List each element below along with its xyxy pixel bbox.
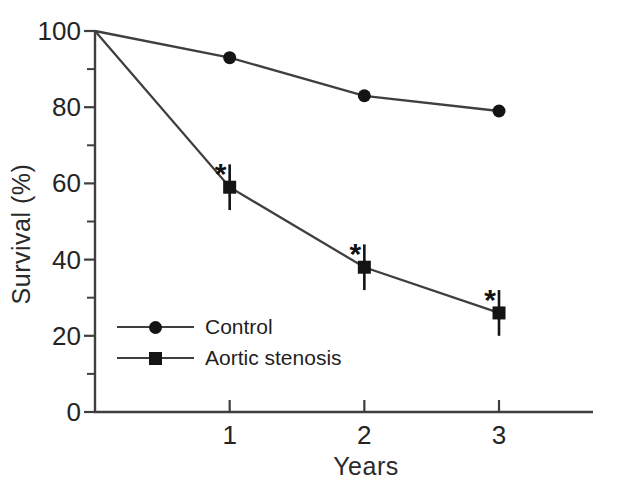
legend-label-control: Control (205, 315, 273, 339)
x-axis-title: Years (333, 452, 399, 481)
x-axis-tick-label: 1 (222, 420, 236, 450)
x-axis-tick-label: 2 (357, 420, 371, 450)
control-line (95, 31, 499, 111)
legend-label-aortic-stenosis: Aortic stenosis (205, 346, 342, 370)
significance-asterisk: * (349, 237, 361, 270)
y-axis-tick-label: 0 (67, 397, 81, 427)
y-axis-tick-label: 20 (52, 321, 81, 351)
legend-item-aortic-stenosis: Aortic stenosis (117, 347, 342, 369)
control-data-point (223, 51, 236, 64)
y-axis-tick-label: 100 (38, 16, 81, 46)
aortic-stenosis-square-marker-icon (149, 352, 162, 365)
control-data-point (493, 105, 506, 118)
y-axis-tick-label: 80 (52, 92, 81, 122)
aortic-stenosis-line-sample (117, 349, 194, 367)
y-axis-title: Survival (%) (7, 164, 36, 305)
y-axis-tick-label: 60 (52, 168, 81, 198)
legend: Control Aortic stenosis (117, 316, 342, 369)
control-line-sample (117, 318, 194, 336)
x-axis-tick-label: 3 (492, 420, 506, 450)
aortic-stenosis-line (95, 31, 499, 313)
significance-asterisk: * (215, 157, 227, 190)
significance-asterisk: * (484, 283, 496, 316)
control-data-point (358, 89, 371, 102)
survival-chart-figure: 020406080100123*** Survival (%) Years Co… (0, 0, 634, 498)
legend-item-control: Control (117, 316, 342, 338)
control-circle-marker-icon (149, 321, 162, 334)
survival-chart-plot: 020406080100123*** (0, 0, 634, 498)
y-axis-tick-label: 40 (52, 245, 81, 275)
